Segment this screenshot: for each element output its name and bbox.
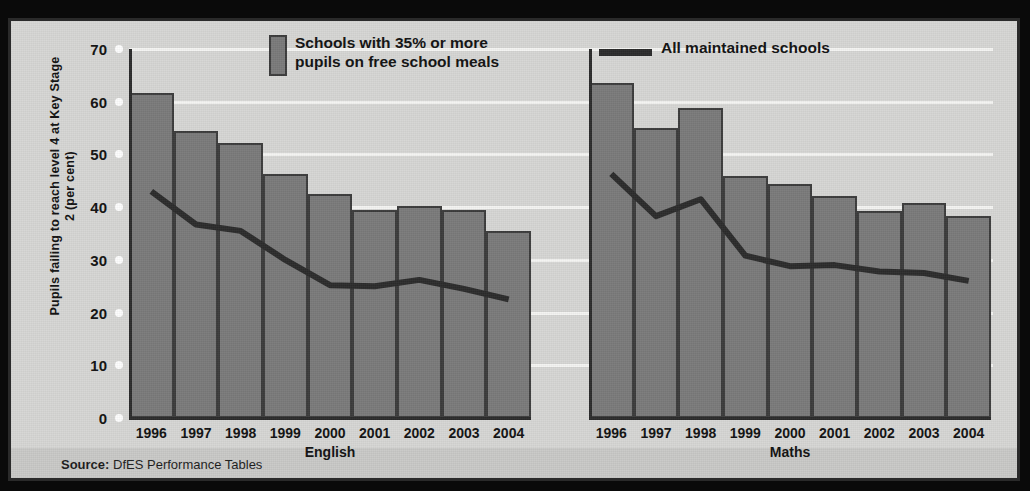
bar-maths-2003 (902, 203, 947, 418)
bar-maths-1998 (678, 108, 723, 418)
legend-label-bar-line2: pupils on free school meals (295, 52, 499, 71)
panel-maths: 199619971998199920002001200220032004Math… (11, 21, 1017, 478)
bar-maths-1997 (634, 128, 679, 418)
source-note: Source: DfES Performance Tables (61, 457, 262, 472)
legend-swatch-bar (269, 35, 287, 76)
source-prefix: Source: (61, 457, 109, 472)
bar-maths-2002 (857, 211, 902, 418)
x-axis-baseline-english (129, 417, 531, 420)
chart-figure: Pupils failing to reach level 4 at Key S… (0, 0, 1030, 491)
y-tick-marker-50 (115, 150, 123, 158)
legend-swatch-line (599, 49, 652, 56)
legend-label-line: All maintained schools (661, 39, 830, 57)
chart-plate: Pupils failing to reach level 4 at Key S… (8, 18, 1020, 481)
legend-label-bar: Schools with 35% or more pupils on free … (295, 33, 499, 71)
x-tick-label-maths-2004: 2004 (942, 425, 995, 441)
source-text: DfES Performance Tables (113, 457, 262, 472)
legend-label-bar-line1: Schools with 35% or more (295, 33, 499, 52)
y-tick-marker-0 (115, 414, 123, 422)
bar-maths-1996 (589, 83, 634, 418)
y-axis-spine-english (129, 49, 132, 418)
y-tick-marker-60 (115, 98, 123, 106)
y-tick-marker-40 (115, 203, 123, 211)
y-tick-marker-20 (115, 309, 123, 317)
bar-maths-2001 (812, 196, 857, 418)
y-tick-marker-10 (115, 361, 123, 369)
panel-caption-maths: Maths (589, 444, 991, 460)
y-tick-marker-30 (115, 256, 123, 264)
x-axis-baseline-maths (589, 417, 991, 420)
y-tick-marker-70 (115, 45, 123, 53)
bar-maths-2000 (768, 184, 813, 418)
y-axis-spine-maths (589, 49, 592, 418)
bar-maths-1999 (723, 176, 768, 418)
bar-maths-2004 (946, 216, 991, 418)
